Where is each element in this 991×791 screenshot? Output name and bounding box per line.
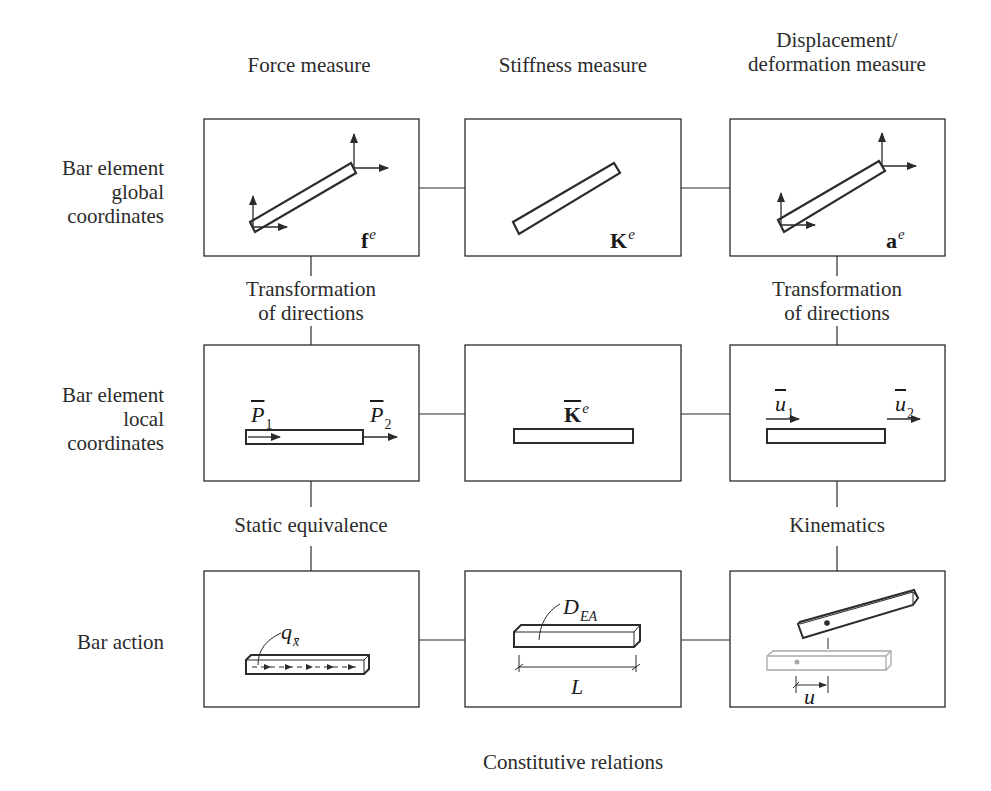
symbol-local-disp-1: u1 (775, 392, 794, 426)
box-action-force (204, 571, 419, 707)
row-header-global-line3: coordinates (20, 204, 164, 228)
inclined-bar-stiffness (513, 163, 620, 234)
row-header-local-line3: coordinates (20, 431, 164, 455)
symbol-local-stiffness: Ke (564, 396, 589, 427)
symbol-global-displacement: ae (886, 222, 905, 253)
box-action-displacement (730, 571, 945, 707)
fem-bar-element-diagram: Force measure Stiffness measure Displace… (0, 0, 991, 791)
transition-disp-transformation-line2: of directions (772, 301, 902, 325)
transition-force-transformation-line1: Transformation (246, 277, 376, 301)
transition-force-transformation: Transformation of directions (246, 277, 376, 325)
symbol-axial-stiffness: DEA (563, 595, 597, 629)
symbol-local-disp-2: u2 (895, 392, 914, 426)
column-header-displacement: Displacement/ deformation measure (748, 28, 926, 76)
row-header-local-line2: local (20, 407, 164, 431)
bar-action-displacement (767, 590, 918, 693)
row-header-global-line1: Bar element (20, 156, 164, 180)
caption-constitutive-relations: Constitutive relations (483, 750, 663, 774)
transition-static-equivalence: Static equivalence (234, 513, 387, 537)
row-header-local: Bar element local coordinates (20, 383, 164, 455)
box-global-displacement (730, 119, 945, 256)
inclined-bar-force (250, 134, 388, 232)
column-header-force: Force measure (247, 53, 370, 77)
symbol-global-stiffness: Ke (610, 222, 635, 253)
transition-disp-transformation-line1: Transformation (772, 277, 902, 301)
column-header-displacement-line1: Displacement/ (748, 28, 926, 52)
row-header-local-line1: Bar element (20, 383, 164, 407)
transition-force-transformation-line2: of directions (246, 301, 376, 325)
symbol-local-force-1: P1 (251, 403, 272, 437)
row-header-action: Bar action (20, 630, 164, 654)
row-header-global-line2: global (20, 180, 164, 204)
symbol-global-force: fe (361, 222, 376, 253)
transition-disp-transformation: Transformation of directions (772, 277, 902, 325)
inclined-bar-displacement (778, 133, 916, 232)
column-header-stiffness: Stiffness measure (499, 53, 647, 77)
column-header-displacement-line2: deformation measure (748, 52, 926, 76)
box-global-force (204, 119, 419, 256)
row-header-global: Bar element global coordinates (20, 156, 164, 228)
symbol-length: L (571, 675, 583, 699)
symbol-distributed-load: qx̄ (281, 620, 299, 654)
bar-action-force (246, 633, 369, 674)
local-bar-stiffness (514, 429, 633, 443)
symbol-local-force-2: P2 (370, 403, 391, 437)
symbol-displacement-u: u (804, 685, 815, 709)
transition-kinematics: Kinematics (789, 513, 885, 537)
